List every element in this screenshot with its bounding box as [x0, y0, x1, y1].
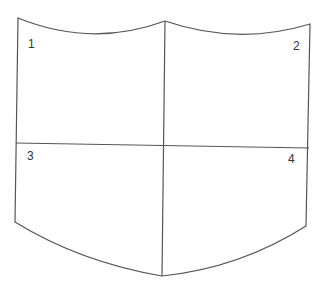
horizontal-divider: [16, 143, 309, 148]
quadrant-label-2: 2: [293, 39, 300, 53]
shield-diagram: 1 2 3 4: [0, 0, 321, 294]
quadrant-label-4: 4: [288, 152, 295, 166]
quadrant-label-3: 3: [27, 149, 34, 163]
quadrant-label-1: 1: [28, 37, 35, 51]
vertical-divider: [162, 21, 165, 276]
